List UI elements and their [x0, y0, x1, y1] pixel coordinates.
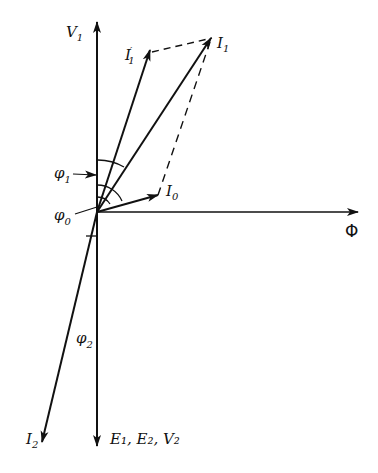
phi2-label: φ2: [76, 329, 93, 350]
phi1-label: φ1: [54, 164, 71, 185]
e1-e2-v2-label: E₁, E₂, V₂: [109, 430, 180, 448]
i1-prime-label: I′1: [124, 45, 135, 66]
phi1-pointer: [73, 174, 96, 175]
phi0-label: φ0: [54, 206, 72, 227]
i1-prime-phasor: [97, 50, 150, 212]
i0-label: I0: [165, 182, 179, 202]
dashed-i0-to-i1: [158, 42, 210, 195]
i1-label: I1: [216, 34, 229, 54]
i1-phasor: [97, 38, 211, 212]
v1-label: V1: [66, 23, 83, 43]
i2-label: I2: [25, 430, 38, 450]
phi0-pointer: [75, 207, 97, 214]
phi1-arc: [97, 160, 124, 167]
i2-phasor: [42, 212, 97, 442]
flux-label: Φ: [345, 221, 358, 241]
phasor-diagram: V1 I′1 I1 φ1 φ0 I0 Φ φ2 I2 E₁, E₂, V₂: [0, 0, 378, 473]
